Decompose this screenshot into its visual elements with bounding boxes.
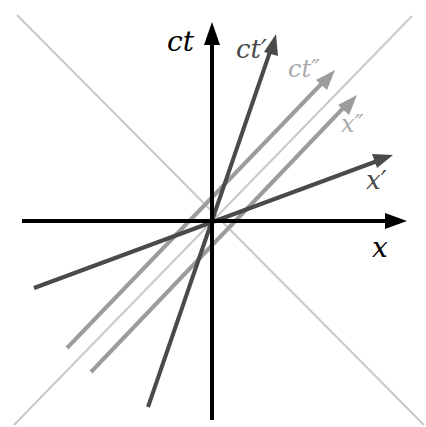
- ct-double-prime-label: ct″: [288, 57, 320, 81]
- x-axis-arrowhead-icon: [385, 213, 407, 229]
- ct-label: ct: [167, 28, 194, 56]
- x-double-prime-label: x″: [341, 112, 364, 136]
- diagram-svg: [0, 0, 426, 427]
- ct-prime-label: ct′: [236, 36, 267, 62]
- x-double-prime-axis: [91, 103, 348, 372]
- ct-double-prime-axis: [67, 78, 327, 348]
- spacetime-diagram: ct ct′ ct″ x″ x′ x: [0, 0, 426, 427]
- x-label: x: [372, 234, 388, 262]
- x-prime-axis: [34, 160, 380, 288]
- ct-axis-arrowhead-icon: [204, 22, 220, 45]
- x-prime-label: x′: [366, 167, 387, 193]
